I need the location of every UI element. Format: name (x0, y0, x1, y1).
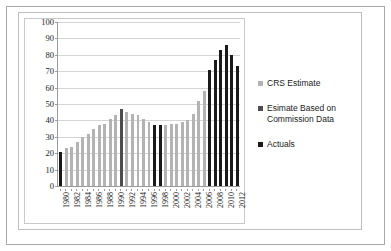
bar (203, 91, 206, 186)
bar (214, 60, 217, 186)
x-tick-mark (203, 189, 204, 191)
bar (98, 125, 101, 186)
y-tick-label: 90 (28, 34, 54, 43)
x-tick-mark (65, 189, 66, 191)
bar-slot (235, 22, 241, 186)
y-tick-label: 30 (28, 133, 54, 142)
y-tick-label: 100 (28, 18, 54, 27)
x-tick-mark (170, 189, 171, 191)
bar (236, 66, 239, 186)
x-tick-mark (115, 189, 116, 191)
y-tick-label: 40 (28, 116, 54, 125)
x-tick-mark (148, 189, 149, 191)
x-tick-mark (82, 189, 83, 191)
bar (65, 148, 68, 186)
x-tick-mark (159, 189, 160, 191)
x-tick-mark (98, 189, 99, 191)
bar (120, 109, 123, 186)
bar (192, 114, 195, 186)
x-tick-mark (198, 189, 199, 191)
x-tick-mark (120, 189, 121, 191)
legend-label: CRS Estimate (267, 78, 320, 89)
bar (103, 124, 106, 186)
x-tick-mark (60, 189, 61, 191)
x-tick-mark (154, 189, 155, 191)
legend-label: Esimate Based on Commission Data (267, 103, 358, 125)
bar (87, 134, 90, 186)
legend-swatch-icon (258, 81, 263, 86)
bar-group (58, 22, 240, 186)
bar (109, 119, 112, 186)
x-tick-mark (87, 189, 88, 191)
bar (170, 124, 173, 186)
x-tick-mark (181, 189, 182, 191)
chart-legend: CRS EstimateEsimate Based on Commission … (258, 78, 358, 164)
bar (70, 147, 73, 186)
y-tick-label: 0 (28, 182, 54, 191)
bar (153, 125, 156, 186)
x-tick-mark (214, 189, 215, 191)
x-tick-mark (71, 189, 72, 191)
bar (225, 45, 228, 186)
bar (208, 70, 211, 186)
bar (159, 125, 162, 186)
bar (186, 120, 189, 186)
y-tick-label: 80 (28, 51, 54, 60)
bar (114, 115, 117, 186)
x-tick-mark (209, 189, 210, 191)
x-tick-mark (236, 189, 237, 191)
bar (219, 50, 222, 186)
bar (81, 137, 84, 186)
x-tick-mark (104, 189, 105, 191)
x-tick-mark (126, 189, 127, 191)
y-tick-label: 60 (28, 84, 54, 93)
legend-swatch-icon (258, 142, 263, 147)
x-tick-mark (220, 189, 221, 191)
legend-label: Actuals (267, 139, 295, 150)
bar (76, 142, 79, 186)
bar (59, 152, 62, 186)
bar (197, 101, 200, 186)
legend-swatch-icon (258, 106, 263, 111)
x-tick-mark (137, 189, 138, 191)
y-tick-label: 20 (28, 149, 54, 158)
legend-item: CRS Estimate (258, 78, 358, 89)
y-axis: 1009080706050403020100 (28, 22, 54, 186)
y-tick-mark (55, 186, 58, 187)
legend-item: Esimate Based on Commission Data (258, 103, 358, 125)
plot-area (57, 22, 240, 187)
x-tick-mark (231, 189, 232, 191)
bar (164, 125, 167, 186)
bar (92, 129, 95, 186)
x-tick-mark (187, 189, 188, 191)
screenshot-root: 1009080706050403020100 19801982198419861… (0, 0, 391, 251)
bar (142, 119, 145, 186)
x-tick-mark (131, 189, 132, 191)
x-tick-label: 2012 (239, 192, 247, 208)
x-tick-mark (142, 189, 143, 191)
x-tick-mark (93, 189, 94, 191)
x-tick-mark (225, 189, 226, 191)
x-tick-mark (165, 189, 166, 191)
bar (181, 122, 184, 186)
legend-item: Actuals (258, 139, 358, 150)
x-tick-mark (109, 189, 110, 191)
bar (148, 122, 151, 186)
x-slot: 2012 (234, 189, 240, 225)
y-tick-label: 70 (28, 67, 54, 76)
x-tick-mark (176, 189, 177, 191)
bar (131, 114, 134, 186)
bar (230, 55, 233, 186)
y-tick-label: 10 (28, 166, 54, 175)
bar (175, 124, 178, 186)
y-tick-label: 50 (28, 100, 54, 109)
bar (125, 112, 128, 186)
x-tick-mark (192, 189, 193, 191)
x-axis: 1980198219841986198819901992199419961998… (57, 189, 239, 225)
bar (137, 115, 140, 186)
x-tick-mark (76, 189, 77, 191)
